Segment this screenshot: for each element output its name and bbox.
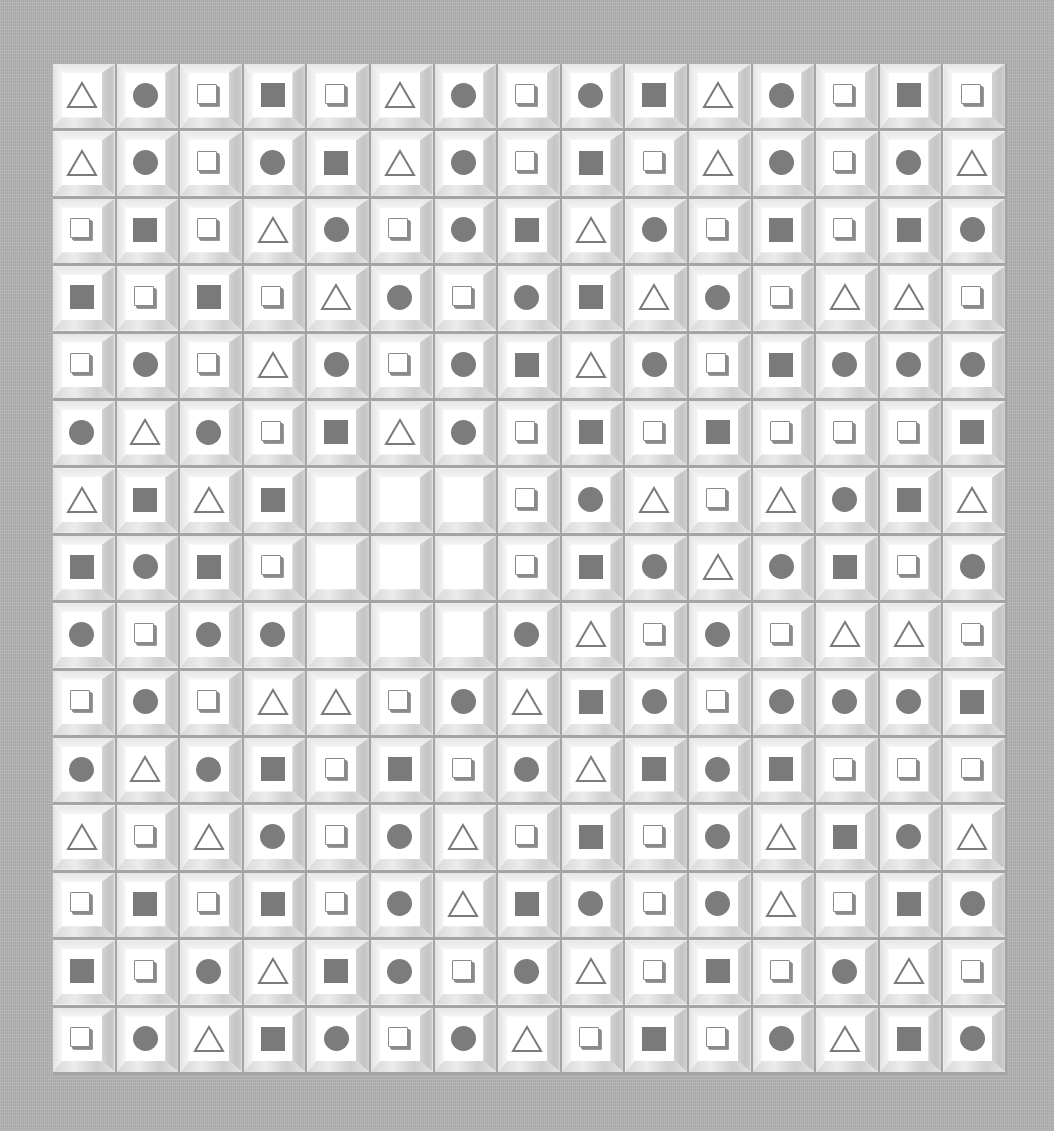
tile-triangle[interactable] bbox=[307, 266, 369, 330]
tile-square[interactable] bbox=[498, 334, 560, 398]
tile-triangle[interactable] bbox=[562, 603, 624, 667]
tile-empty[interactable] bbox=[371, 536, 433, 600]
tile-square[interactable] bbox=[753, 334, 815, 398]
tile-box[interactable] bbox=[753, 401, 815, 465]
tile-box[interactable] bbox=[371, 1008, 433, 1072]
tile-square[interactable] bbox=[562, 805, 624, 869]
tile-circle[interactable] bbox=[180, 738, 242, 802]
tile-square[interactable] bbox=[117, 199, 179, 263]
tile-triangle[interactable] bbox=[880, 940, 942, 1004]
tile-square[interactable] bbox=[880, 873, 942, 937]
tile-box[interactable] bbox=[180, 131, 242, 195]
tile-triangle[interactable] bbox=[880, 603, 942, 667]
tile-circle[interactable] bbox=[435, 131, 497, 195]
tile-empty[interactable] bbox=[435, 536, 497, 600]
tile-square[interactable] bbox=[816, 536, 878, 600]
tile-box[interactable] bbox=[180, 64, 242, 128]
tile-circle[interactable] bbox=[117, 64, 179, 128]
tile-triangle[interactable] bbox=[53, 805, 115, 869]
tile-triangle[interactable] bbox=[943, 131, 1005, 195]
tile-circle[interactable] bbox=[435, 1008, 497, 1072]
tile-box[interactable] bbox=[435, 266, 497, 330]
tile-triangle[interactable] bbox=[435, 873, 497, 937]
tile-triangle[interactable] bbox=[371, 131, 433, 195]
tile-square[interactable] bbox=[307, 401, 369, 465]
tile-box[interactable] bbox=[689, 334, 751, 398]
tile-box[interactable] bbox=[943, 738, 1005, 802]
tile-box[interactable] bbox=[625, 873, 687, 937]
tile-square[interactable] bbox=[117, 468, 179, 532]
tile-square[interactable] bbox=[53, 536, 115, 600]
tile-triangle[interactable] bbox=[880, 266, 942, 330]
tile-empty[interactable] bbox=[371, 468, 433, 532]
tile-circle[interactable] bbox=[435, 64, 497, 128]
tile-square[interactable] bbox=[562, 536, 624, 600]
tile-box[interactable] bbox=[625, 401, 687, 465]
tile-circle[interactable] bbox=[816, 468, 878, 532]
tile-triangle[interactable] bbox=[371, 64, 433, 128]
tile-triangle[interactable] bbox=[753, 805, 815, 869]
tile-square[interactable] bbox=[244, 873, 306, 937]
tile-circle[interactable] bbox=[117, 334, 179, 398]
tile-circle[interactable] bbox=[943, 873, 1005, 937]
tile-box[interactable] bbox=[753, 603, 815, 667]
tile-circle[interactable] bbox=[435, 401, 497, 465]
tile-triangle[interactable] bbox=[562, 940, 624, 1004]
tile-circle[interactable] bbox=[307, 1008, 369, 1072]
tile-triangle[interactable] bbox=[53, 131, 115, 195]
tile-square[interactable] bbox=[307, 131, 369, 195]
tile-circle[interactable] bbox=[562, 468, 624, 532]
tile-circle[interactable] bbox=[180, 940, 242, 1004]
tile-circle[interactable] bbox=[689, 603, 751, 667]
tile-circle[interactable] bbox=[244, 805, 306, 869]
tile-square[interactable] bbox=[562, 671, 624, 735]
tile-circle[interactable] bbox=[753, 671, 815, 735]
tile-empty[interactable] bbox=[307, 603, 369, 667]
tile-box[interactable] bbox=[117, 805, 179, 869]
tile-box[interactable] bbox=[307, 805, 369, 869]
tile-triangle[interactable] bbox=[943, 468, 1005, 532]
tile-circle[interactable] bbox=[880, 131, 942, 195]
tile-box[interactable] bbox=[943, 266, 1005, 330]
tile-box[interactable] bbox=[625, 805, 687, 869]
tile-box[interactable] bbox=[625, 131, 687, 195]
tile-square[interactable] bbox=[943, 671, 1005, 735]
tile-circle[interactable] bbox=[943, 334, 1005, 398]
tile-square[interactable] bbox=[562, 131, 624, 195]
tile-circle[interactable] bbox=[180, 401, 242, 465]
tile-circle[interactable] bbox=[689, 738, 751, 802]
tile-box[interactable] bbox=[53, 1008, 115, 1072]
tile-square[interactable] bbox=[180, 266, 242, 330]
tile-box[interactable] bbox=[943, 603, 1005, 667]
tile-circle[interactable] bbox=[562, 64, 624, 128]
tile-box[interactable] bbox=[244, 536, 306, 600]
tile-box[interactable] bbox=[307, 64, 369, 128]
tile-box[interactable] bbox=[816, 199, 878, 263]
tile-circle[interactable] bbox=[53, 603, 115, 667]
tile-box[interactable] bbox=[53, 671, 115, 735]
tile-circle[interactable] bbox=[498, 738, 560, 802]
tile-square[interactable] bbox=[117, 873, 179, 937]
tile-empty[interactable] bbox=[307, 468, 369, 532]
tile-circle[interactable] bbox=[753, 1008, 815, 1072]
tile-square[interactable] bbox=[180, 536, 242, 600]
tile-circle[interactable] bbox=[244, 131, 306, 195]
tile-circle[interactable] bbox=[880, 805, 942, 869]
tile-empty[interactable] bbox=[307, 536, 369, 600]
tile-square[interactable] bbox=[689, 940, 751, 1004]
tile-square[interactable] bbox=[880, 1008, 942, 1072]
tile-triangle[interactable] bbox=[180, 1008, 242, 1072]
tile-circle[interactable] bbox=[625, 536, 687, 600]
tile-box[interactable] bbox=[498, 131, 560, 195]
tile-circle[interactable] bbox=[943, 536, 1005, 600]
tile-circle[interactable] bbox=[307, 334, 369, 398]
tile-circle[interactable] bbox=[880, 334, 942, 398]
tile-square[interactable] bbox=[753, 738, 815, 802]
tile-box[interactable] bbox=[689, 468, 751, 532]
tile-box[interactable] bbox=[816, 131, 878, 195]
tile-circle[interactable] bbox=[498, 940, 560, 1004]
tile-circle[interactable] bbox=[498, 266, 560, 330]
tile-circle[interactable] bbox=[117, 131, 179, 195]
tile-box[interactable] bbox=[880, 401, 942, 465]
tile-circle[interactable] bbox=[498, 603, 560, 667]
